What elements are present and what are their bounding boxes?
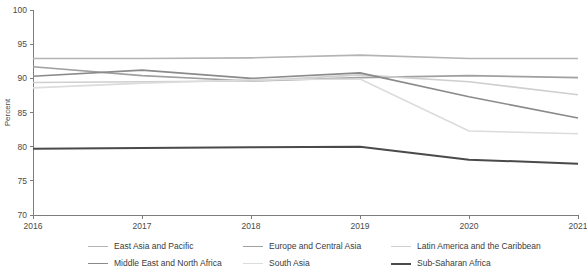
legend-item[interactable]: Europe and Central Asia xyxy=(243,238,391,255)
plot-area: 707580859095100 201620172018201920202021… xyxy=(0,0,587,232)
legend-label: Latin America and the Caribbean xyxy=(417,242,541,251)
y-tick-label: 100 xyxy=(13,5,27,15)
legend-item[interactable]: South Asia xyxy=(243,255,391,272)
legend-color-swatch xyxy=(88,263,108,264)
series-line xyxy=(33,79,578,134)
y-tick-label: 85 xyxy=(18,108,28,118)
y-axis-title: Percent xyxy=(3,98,12,126)
x-tick-label: 2019 xyxy=(351,221,370,231)
x-tick-label: 2016 xyxy=(24,221,43,231)
y-tick-label: 95 xyxy=(18,39,28,49)
legend-color-swatch xyxy=(391,246,411,247)
legend-color-swatch xyxy=(243,263,263,264)
legend-color-swatch xyxy=(88,246,108,247)
x-axis: 201620172018201920202021 xyxy=(24,215,587,231)
line-chart: 707580859095100 201620172018201920202021… xyxy=(0,0,587,278)
legend-color-swatch xyxy=(391,263,411,265)
legend-label: Middle East and North Africa xyxy=(114,259,222,268)
x-tick-label: 2020 xyxy=(460,221,479,231)
legend-label: East Asia and Pacific xyxy=(114,242,193,251)
chart-legend: East Asia and PacificEurope and Central … xyxy=(0,234,587,278)
chart-svg: 707580859095100 201620172018201920202021… xyxy=(0,0,587,232)
x-tick-label: 2021 xyxy=(569,221,587,231)
y-axis: 707580859095100 xyxy=(13,5,33,220)
series-line xyxy=(33,55,578,58)
legend-item[interactable]: Middle East and North Africa xyxy=(88,255,243,272)
y-tick-label: 80 xyxy=(18,142,28,152)
x-tick-label: 2018 xyxy=(242,221,261,231)
series-lines xyxy=(33,55,578,164)
y-tick-label: 90 xyxy=(18,73,28,83)
legend-label: Europe and Central Asia xyxy=(269,242,361,251)
legend-color-swatch xyxy=(243,246,263,247)
legend-item[interactable]: East Asia and Pacific xyxy=(88,238,243,255)
y-tick-label: 75 xyxy=(18,176,28,186)
x-tick-label: 2017 xyxy=(133,221,152,231)
legend-label: South Asia xyxy=(269,259,310,268)
legend-item[interactable]: Sub-Saharan Africa xyxy=(391,255,587,272)
legend-label: Sub-Saharan Africa xyxy=(417,259,491,268)
series-line xyxy=(33,147,578,164)
y-tick-label: 70 xyxy=(18,210,28,220)
legend-item[interactable]: Latin America and the Caribbean xyxy=(391,238,587,255)
